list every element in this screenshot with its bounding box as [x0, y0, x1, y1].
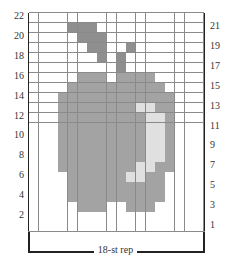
stitch-cell: [126, 162, 136, 172]
stitch-cell: [29, 93, 39, 103]
stitch-cell: [146, 182, 156, 192]
stitch-cell: [78, 152, 88, 162]
stitch-cell: [117, 212, 127, 222]
stitch-cell: [175, 162, 185, 172]
stitch-cell: [78, 212, 88, 222]
stitch-cell: [29, 132, 39, 142]
stitch-cell: [146, 13, 156, 23]
stitch-cell: [39, 192, 49, 202]
stitch-cell: [29, 162, 39, 172]
stitch-cell: [175, 172, 185, 182]
stitch-cell: [97, 63, 107, 73]
stitch-cell: [78, 202, 88, 212]
stitch-cell: [97, 33, 107, 43]
stitch-cell: [78, 33, 88, 43]
stitch-cell: [126, 202, 136, 212]
stitch-cell: [48, 83, 58, 93]
stitch-cell: [126, 212, 136, 222]
stitch-cell: [185, 33, 195, 43]
stitch-cell: [175, 93, 185, 103]
stitch-cell: [78, 132, 88, 142]
stitch-cell: [58, 212, 68, 222]
stitch-cell: [78, 103, 88, 113]
stitch-cell: [68, 192, 78, 202]
stitch-cell: [165, 162, 175, 172]
stitch-cell: [68, 182, 78, 192]
stitch-cell: [165, 182, 175, 192]
stitch-cell: [185, 93, 195, 103]
stitch-cell: [136, 162, 146, 172]
stitch-cell: [117, 123, 127, 133]
stitch-cell: [165, 13, 175, 23]
stitch-cell: [194, 93, 204, 103]
stitch-cell: [39, 132, 49, 142]
stitch-cell: [117, 63, 127, 73]
stitch-cell: [107, 132, 117, 142]
stitch-cell: [175, 212, 185, 222]
stitch-cell: [48, 152, 58, 162]
stitch-cell: [185, 152, 195, 162]
stitch-cell: [146, 152, 156, 162]
stitch-cell: [117, 43, 127, 53]
stitch-cell: [175, 23, 185, 33]
stitch-cell: [58, 63, 68, 73]
stitch-cell: [87, 63, 97, 73]
stitch-cell: [29, 103, 39, 113]
stitch-cell: [87, 13, 97, 23]
row-number: 16: [4, 70, 24, 81]
stitch-cell: [48, 202, 58, 212]
stitch-cell: [146, 212, 156, 222]
stitch-cell: [97, 23, 107, 33]
stitch-cell: [175, 103, 185, 113]
stitch-cell: [165, 142, 175, 152]
stitch-cell: [146, 132, 156, 142]
stitch-cell: [146, 162, 156, 172]
stitch-cell: [117, 73, 127, 83]
stitch-cell: [107, 152, 117, 162]
stitch-cell: [155, 33, 165, 43]
stitch-cell: [58, 152, 68, 162]
stitch-cell: [185, 172, 195, 182]
stitch-cell: [136, 43, 146, 53]
stitch-cell: [87, 162, 97, 172]
stitch-cell: [48, 43, 58, 53]
stitch-cell: [155, 172, 165, 182]
stitch-cell: [68, 202, 78, 212]
stitch-cell: [39, 103, 49, 113]
stitch-cell: [68, 172, 78, 182]
stitch-cell: [97, 43, 107, 53]
stitch-cell: [136, 202, 146, 212]
stitch-cell: [165, 132, 175, 142]
stitch-cell: [68, 83, 78, 93]
stitch-cell: [126, 132, 136, 142]
stitch-cell: [194, 192, 204, 202]
stitch-cell: [136, 212, 146, 222]
stitch-cell: [175, 132, 185, 142]
stitch-cell: [194, 172, 204, 182]
stitch-cell: [175, 202, 185, 212]
stitch-cell: [194, 152, 204, 162]
stitch-cell: [58, 162, 68, 172]
stitch-cell: [39, 43, 49, 53]
stitch-cell: [155, 53, 165, 63]
stitch-cell: [155, 103, 165, 113]
stitch-cell: [194, 212, 204, 222]
stitch-cell: [68, 142, 78, 152]
stitch-cell: [78, 43, 88, 53]
stitch-cell: [48, 63, 58, 73]
stitch-cell: [29, 172, 39, 182]
stitch-cell: [117, 23, 127, 33]
stitch-cell: [87, 43, 97, 53]
stitch-cell: [155, 142, 165, 152]
stitch-cell: [48, 113, 58, 123]
stitch-cell: [29, 83, 39, 93]
stitch-cell: [146, 113, 156, 123]
stitch-cell: [58, 192, 68, 202]
stitch-cell: [136, 83, 146, 93]
stitch-cell: [68, 103, 78, 113]
stitch-cell: [194, 182, 204, 192]
stitch-cell: [107, 182, 117, 192]
stitch-cell: [165, 63, 175, 73]
stitch-cell: [87, 152, 97, 162]
stitch-cell: [87, 202, 97, 212]
